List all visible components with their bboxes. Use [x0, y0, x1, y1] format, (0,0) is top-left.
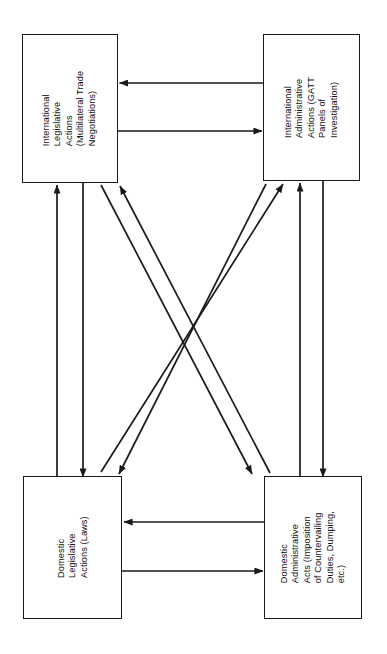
- node-label-wrapper: International Administrative Actions (GA…: [264, 35, 359, 180]
- edge-dom-admin-to-intl-legis: [120, 186, 270, 473]
- node-label-wrapper: International Legislative Actions (Multi…: [23, 35, 117, 182]
- node-label-international-legislative-actions: International Legislative Actions (Multi…: [41, 71, 98, 146]
- diagram-page: International Legislative Actions (Multi…: [0, 0, 387, 654]
- node-international-legislative-actions[interactable]: International Legislative Actions (Multi…: [22, 34, 118, 183]
- node-domestic-administrative-acts[interactable]: Domestic Administrative Acts (Imposition…: [264, 476, 362, 619]
- node-international-administrative-actions[interactable]: International Administrative Actions (GA…: [263, 34, 360, 181]
- node-label-wrapper: Domestic Administrative Acts (Imposition…: [265, 477, 361, 618]
- node-label-wrapper: Domestic Legislative Actions (Laws): [24, 477, 121, 618]
- edge-intl-legis-to-dom-admin: [101, 185, 252, 474]
- node-label-international-administrative-actions: International Administrative Actions (GA…: [283, 77, 340, 138]
- node-label-domestic-legislative-actions: Domestic Legislative Actions (Laws): [55, 517, 89, 579]
- edge-dom-legis-to-intl-admin: [101, 184, 283, 472]
- node-domestic-legislative-actions[interactable]: Domestic Legislative Actions (Laws): [23, 476, 122, 619]
- node-label-domestic-administrative-acts: Domestic Administrative Acts (Imposition…: [279, 511, 347, 583]
